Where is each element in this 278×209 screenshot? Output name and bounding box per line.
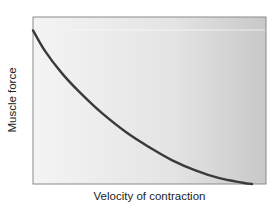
y-axis-label: Muscle force — [6, 67, 18, 132]
plot-area — [33, 17, 266, 184]
x-axis-label: Velocity of contraction — [33, 190, 266, 202]
chart-canvas — [0, 0, 278, 209]
